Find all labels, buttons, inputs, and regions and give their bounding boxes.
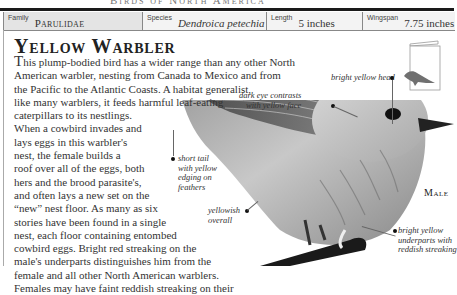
annotation-tail-leader: [173, 130, 174, 156]
annotation-head-leader: [392, 80, 393, 124]
book-bird-thumbnail-icon: [404, 40, 448, 92]
body-line: and often lays a new set on the: [14, 189, 295, 202]
wingspan-label: Wingspan: [367, 14, 398, 21]
body-line: his plump-bodied bird has a wider range …: [23, 56, 295, 68]
body-line: stories have been found in a single: [14, 216, 295, 229]
sex-label: Male: [424, 187, 449, 198]
annotation-overall: yellowish overall: [208, 206, 240, 225]
body-line: cowbird eggs. Bright red streaking on th…: [14, 242, 295, 255]
body-line: caterpillars to its nestlings.: [14, 109, 295, 122]
annotation-tail-dot: [171, 157, 175, 161]
annotation-text: reddish streaking: [398, 245, 457, 255]
page-title: Yellow Warbler: [14, 36, 176, 56]
annotation-text: with yellow face: [239, 101, 301, 111]
family-cell: Family Parulidae: [4, 12, 143, 30]
body-line: hers and the brood parasite's,: [14, 176, 295, 189]
running-head-text: Birds of North America: [110, 0, 266, 4]
body-line: roof over all of the eggs, both: [14, 162, 295, 175]
wingspan-value: 7.75 inches: [404, 17, 454, 29]
species-info-bar: Family Parulidae Species Dendroica petec…: [3, 12, 455, 31]
family-value: Parulidae: [35, 17, 85, 29]
running-head: Birds of North America: [0, 0, 454, 4]
body-line: female and all other North American warb…: [14, 269, 295, 282]
body-line: American warbler, nesting from Canada to…: [14, 69, 295, 82]
annotation-text: overall: [208, 216, 240, 226]
length-value: 5 inches: [298, 17, 334, 29]
drop-cap: T: [14, 53, 23, 69]
left-margin-rule: [3, 30, 4, 266]
body-line: male's underparts distinguishes him from…: [14, 255, 295, 268]
body-line: Females may have faint reddish streaking…: [14, 282, 295, 295]
header-rule: [0, 8, 454, 11]
species-label: Species: [147, 14, 172, 21]
annotation-text: bright yellow head: [331, 73, 395, 83]
body-line: lays eggs in this warbler's: [14, 136, 295, 149]
annotation-head: bright yellow head: [331, 73, 395, 83]
family-label: Family: [8, 14, 29, 21]
species-value: Dendroica petechia: [178, 17, 265, 29]
body-line: nest, the female builds a: [14, 149, 295, 162]
species-cell: Species Dendroica petechia: [143, 12, 267, 30]
body-line: nest, each floor containing entombed: [14, 229, 295, 242]
body-line: When a cowbird invades and: [14, 122, 295, 135]
annotation-text: feathers: [178, 183, 217, 193]
annotation-eye: dark eye contrasts with yellow face: [239, 91, 301, 110]
annotation-underparts-dot: [393, 229, 397, 233]
annotation-underparts: bright yellow underparts with reddish st…: [398, 226, 457, 255]
length-label: Length: [271, 14, 292, 21]
annotation-tail: short tail with yellow edging on feather…: [178, 154, 217, 192]
wingspan-cell: Wingspan 7.75 inches: [363, 12, 455, 30]
length-cell: Length 5 inches: [267, 12, 363, 30]
